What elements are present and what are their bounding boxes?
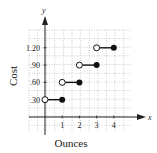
x-tick-label: 2	[77, 121, 81, 130]
closed-endpoint-icon	[76, 79, 82, 85]
x-axis-arrow-icon	[137, 114, 146, 120]
axes: x y	[29, 6, 152, 135]
y-axis-variable: y	[41, 6, 46, 15]
y-tick-label: .90	[30, 61, 40, 70]
open-endpoint-icon	[94, 45, 100, 51]
step-function-chart: x y 1234.30.60.901.20 Ounces Cost	[0, 0, 157, 153]
x-tick-label: 1	[60, 121, 64, 130]
step-series	[42, 45, 117, 103]
x-tick-label: 4	[112, 121, 116, 130]
y-axis-arrow-icon	[42, 16, 48, 25]
x-axis-variable: x	[147, 113, 152, 122]
x-tick-label: 3	[95, 121, 99, 130]
open-endpoint-icon	[76, 62, 82, 68]
y-axis-title: Cost	[7, 66, 19, 86]
closed-endpoint-icon	[111, 45, 117, 51]
open-endpoint-icon	[42, 97, 48, 103]
y-tick-label: .60	[30, 78, 40, 87]
closed-endpoint-icon	[59, 97, 65, 103]
y-tick-label: .30	[30, 96, 40, 105]
y-tick-label: 1.20	[26, 44, 40, 53]
closed-endpoint-icon	[94, 62, 100, 68]
x-axis-title: Ounces	[55, 137, 88, 149]
open-endpoint-icon	[59, 79, 65, 85]
